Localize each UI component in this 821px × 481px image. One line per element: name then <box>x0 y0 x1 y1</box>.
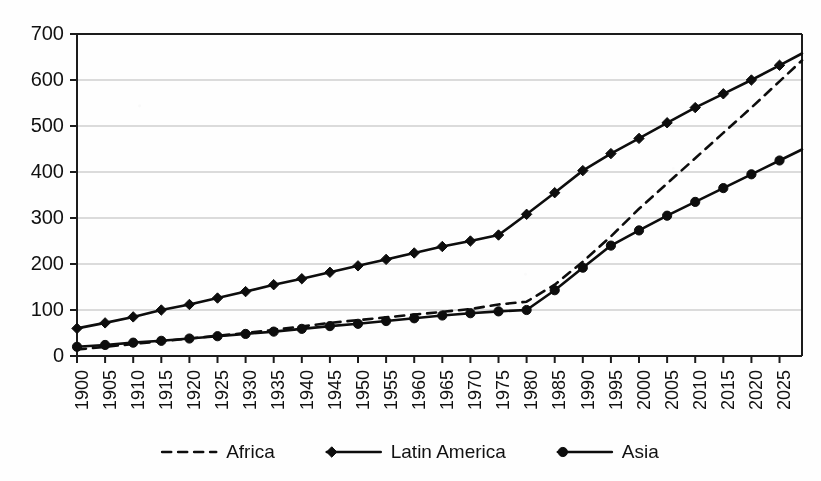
x-axis-ticks-group <box>77 356 780 363</box>
data-point-marker <box>466 309 475 318</box>
data-point-marker <box>381 254 391 264</box>
x-axis-tick-label: 1985 <box>549 370 569 410</box>
data-point-marker <box>578 263 587 272</box>
x-axis-tick-label: 2020 <box>746 370 766 410</box>
data-point-marker <box>719 184 728 193</box>
x-axis-tick-label: 1900 <box>72 370 92 410</box>
x-axis-tick-label: 1975 <box>493 370 513 410</box>
data-point-marker <box>297 324 306 333</box>
x-axis-tick-label: 1935 <box>268 370 288 410</box>
data-point-marker <box>269 280 279 290</box>
legend-label: Africa <box>226 441 275 462</box>
x-axis-tick-label: 1955 <box>381 370 401 410</box>
x-axis-tick-label: 1945 <box>325 370 345 410</box>
data-point-marker <box>634 133 644 143</box>
data-point-marker <box>465 236 475 246</box>
data-point-marker <box>691 197 700 206</box>
legend-item-africa[interactable]: Africa <box>162 441 275 462</box>
data-point-marker <box>128 312 138 322</box>
data-point-marker <box>72 342 81 351</box>
data-point-marker <box>100 318 110 328</box>
x-axis-tick-label: 1925 <box>212 370 232 410</box>
x-axis-tick-label: 2000 <box>634 370 654 410</box>
y-axis-ticks-group <box>70 34 77 356</box>
data-point-marker <box>241 329 250 338</box>
data-point-marker <box>297 274 307 284</box>
data-point-marker <box>409 248 419 258</box>
x-axis-tick-label: 1995 <box>606 370 626 410</box>
series-asia <box>72 149 802 351</box>
data-point-marker <box>101 340 110 349</box>
data-point-marker <box>494 307 503 316</box>
x-axis-tick-label: 1940 <box>297 370 317 410</box>
x-axis-tick-label: 2005 <box>662 370 682 410</box>
data-point-marker <box>550 286 559 295</box>
x-axis-tick-label: 1980 <box>521 370 541 410</box>
data-point-marker <box>690 102 700 112</box>
plot-frame <box>77 34 802 356</box>
data-point-marker <box>327 447 337 457</box>
y-axis-tick-label: 100 <box>31 298 64 320</box>
data-point-marker <box>558 447 567 456</box>
legend-item-latin-america[interactable]: Latin America <box>327 441 507 462</box>
legend-label: Latin America <box>391 441 507 462</box>
y-axis-labels-group: 0100200300400500600700 <box>31 22 64 366</box>
data-point-marker <box>438 311 447 320</box>
data-point-marker <box>325 322 334 331</box>
y-axis-tick-label: 600 <box>31 68 64 90</box>
legend-item-asia[interactable]: Asia <box>558 441 659 462</box>
data-point-marker <box>184 299 194 309</box>
data-point-marker <box>240 286 250 296</box>
chart-legend: AfricaLatin AmericaAsia <box>162 441 659 462</box>
data-point-marker <box>157 336 166 345</box>
x-axis-tick-label: 1930 <box>240 370 260 410</box>
data-point-marker <box>774 60 784 70</box>
y-axis-tick-label: 400 <box>31 160 64 182</box>
data-point-marker <box>129 338 138 347</box>
x-axis-tick-label: 1910 <box>128 370 148 410</box>
chart-container: 0100200300400500600700 19001905191019151… <box>0 0 821 481</box>
x-axis-labels-group: 1900190519101915192019251930193519401945… <box>72 370 795 410</box>
data-point-marker <box>718 89 728 99</box>
y-axis-tick-label: 0 <box>53 344 64 366</box>
data-point-marker <box>746 75 756 85</box>
y-axis-tick-label: 500 <box>31 114 64 136</box>
y-axis-tick-label: 300 <box>31 206 64 228</box>
data-point-marker <box>213 332 222 341</box>
line-chart: 0100200300400500600700 19001905191019151… <box>0 0 821 481</box>
data-point-marker <box>212 293 222 303</box>
data-point-marker <box>747 170 756 179</box>
x-axis-tick-label: 1905 <box>100 370 120 410</box>
y-axis-tick-label: 700 <box>31 22 64 44</box>
data-point-marker <box>353 261 363 271</box>
x-axis-tick-label: 1965 <box>437 370 457 410</box>
data-point-marker <box>410 314 419 323</box>
data-point-marker <box>72 323 82 333</box>
data-point-marker <box>353 319 362 328</box>
series-line <box>77 54 802 329</box>
y-axis-tick-label: 200 <box>31 252 64 274</box>
data-point-marker <box>522 305 531 314</box>
data-point-marker <box>663 211 672 220</box>
series-latin-america <box>72 54 802 334</box>
x-axis-tick-label: 1915 <box>156 370 176 410</box>
data-point-marker <box>606 241 615 250</box>
x-axis-tick-label: 2025 <box>774 370 794 410</box>
legend-label: Asia <box>622 441 659 462</box>
data-point-marker <box>775 156 784 165</box>
x-axis-tick-label: 1960 <box>409 370 429 410</box>
data-point-marker <box>437 241 447 251</box>
series-group <box>72 54 802 352</box>
data-point-marker <box>634 226 643 235</box>
data-point-marker <box>185 334 194 343</box>
x-axis-tick-label: 2015 <box>718 370 738 410</box>
gridlines-group <box>77 80 802 310</box>
x-axis-tick-label: 1950 <box>353 370 373 410</box>
data-point-marker <box>382 316 391 325</box>
x-axis-tick-label: 1990 <box>578 370 598 410</box>
x-axis-tick-label: 1970 <box>465 370 485 410</box>
data-point-marker <box>156 305 166 315</box>
data-point-marker <box>325 267 335 277</box>
x-axis-tick-label: 1920 <box>184 370 204 410</box>
data-point-marker <box>269 327 278 336</box>
